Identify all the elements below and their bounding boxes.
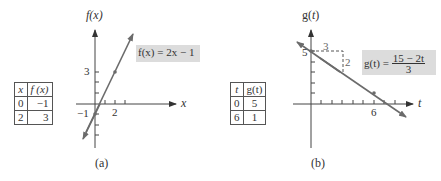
- tick-label-b-5: 5: [302, 46, 308, 58]
- y-axis-label-b: g(t): [302, 8, 319, 23]
- table-b-header: t g(t): [231, 83, 266, 97]
- equation-numerator: 15 − 2t: [392, 53, 425, 64]
- table-a: x f (x) 0 −1 2 3: [14, 82, 53, 125]
- table-b: t g(t) 0 5 6 1: [230, 82, 266, 125]
- x-ticks-a: [105, 100, 125, 104]
- figure-canvas: [0, 0, 441, 181]
- y-axis-label-a: f(x): [86, 8, 103, 23]
- table-cell: 0: [15, 97, 28, 111]
- point-b-6-1: [372, 91, 376, 95]
- equation-label-a: f(x) = 2x − 1: [138, 46, 194, 58]
- table-row: 0 5: [231, 97, 266, 111]
- tick-label-a-neg1: −1: [77, 107, 89, 119]
- point-a-2-3: [113, 70, 117, 74]
- slope-rise-label: 2: [345, 56, 351, 68]
- table-header-cell: x: [15, 83, 28, 97]
- graph-b: [293, 30, 436, 148]
- point-b-0-5: [309, 49, 313, 53]
- tick-label-b-6: 6: [371, 106, 377, 118]
- slope-run-label: 3: [323, 40, 329, 52]
- table-header-cell: f (x): [27, 83, 52, 97]
- x-axis-label-b: t: [418, 96, 421, 111]
- table-cell: 3: [27, 111, 52, 125]
- table-header-cell: g(t): [243, 83, 266, 97]
- table-cell: 5: [243, 97, 266, 111]
- table-cell: 2: [15, 111, 28, 125]
- table-a-header: x f (x): [15, 83, 53, 97]
- table-row: 2 3: [15, 111, 53, 125]
- tick-label-a-2: 2: [112, 106, 118, 118]
- table-row: 6 1: [231, 111, 266, 125]
- table-cell: 0: [231, 97, 244, 111]
- table-header-cell: t: [231, 83, 244, 97]
- point-a-0-neg1: [93, 112, 97, 116]
- y-ticks-b: [311, 51, 315, 93]
- tick-label-a-3: 3: [84, 65, 90, 77]
- x-axis-label-a: x: [181, 96, 186, 111]
- table-cell: 6: [231, 111, 244, 125]
- equation-lhs: g(t) =: [364, 57, 389, 69]
- table-cell: 1: [243, 111, 266, 125]
- caption-b: (b): [311, 156, 325, 171]
- caption-a: (a): [95, 156, 108, 171]
- equation-label-b: g(t) = 15 − 2t 3: [364, 52, 434, 74]
- table-row: 0 −1: [15, 97, 53, 111]
- equation-denominator: 3: [406, 64, 412, 74]
- equation-fraction: 15 − 2t 3: [392, 53, 425, 74]
- table-cell: −1: [27, 97, 52, 111]
